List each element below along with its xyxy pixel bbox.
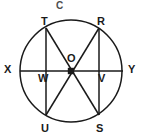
vertex-label-t: T <box>41 16 48 27</box>
center-point-marker <box>68 68 74 74</box>
vertex-label-y: Y <box>128 64 135 75</box>
vertex-label-w: W <box>38 73 48 84</box>
vertex-label-u: U <box>41 123 49 134</box>
vertex-label-r: R <box>97 16 105 27</box>
geometry-canvas <box>0 0 143 140</box>
vertex-label-x: X <box>4 64 11 75</box>
vertex-label-s: S <box>96 123 103 134</box>
vertex-label-c: C <box>56 1 63 11</box>
vertex-label-o: O <box>67 53 76 64</box>
vertex-label-v: V <box>98 73 105 84</box>
geometry-figure: C T R X Y W V O U S <box>0 0 143 140</box>
